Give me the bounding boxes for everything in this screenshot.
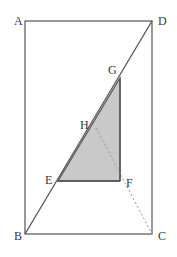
figure-svg: A B C D E F G H <box>0 0 177 257</box>
vertex-label-b: B <box>14 229 22 243</box>
vertex-label-e: E <box>45 173 52 187</box>
vertex-label-h: H <box>80 118 89 132</box>
geometry-figure: A B C D E F G H <box>0 0 177 257</box>
vertex-label-g: G <box>108 63 117 77</box>
vertex-label-a: A <box>14 14 23 28</box>
vertex-label-f: F <box>126 176 133 190</box>
vertex-label-c: C <box>158 229 166 243</box>
vertex-label-d: D <box>158 14 167 28</box>
